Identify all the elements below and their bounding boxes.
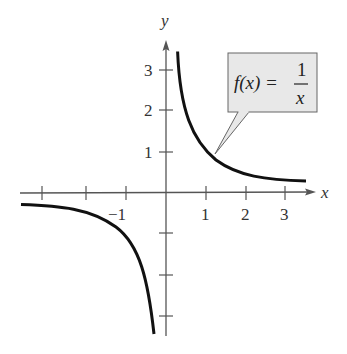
- function-callout: f(x) = 1 x: [215, 53, 317, 154]
- curve-negative-branch: [21, 205, 154, 335]
- x-tick-label-3: 3: [280, 205, 289, 224]
- y-axis-label: y: [159, 11, 169, 30]
- y-tick-label-2: 2: [144, 101, 153, 120]
- x-tick-label-neg1: −1: [108, 205, 126, 224]
- x-tick-label-1: 1: [201, 205, 210, 224]
- x-tick-label-2: 2: [241, 205, 250, 224]
- callout-numerator: 1: [297, 59, 307, 80]
- function-graph: −1 1 2 3 3 2 1 x y f(x) = 1 x: [0, 0, 347, 354]
- callout-formula-lhs: f(x) =: [234, 72, 278, 94]
- y-tick-label-1: 1: [144, 143, 153, 162]
- callout-denominator: x: [295, 87, 305, 108]
- y-tick-label-3: 3: [144, 61, 153, 80]
- x-axis-label: x: [320, 183, 329, 202]
- callout-pointer: [215, 112, 249, 154]
